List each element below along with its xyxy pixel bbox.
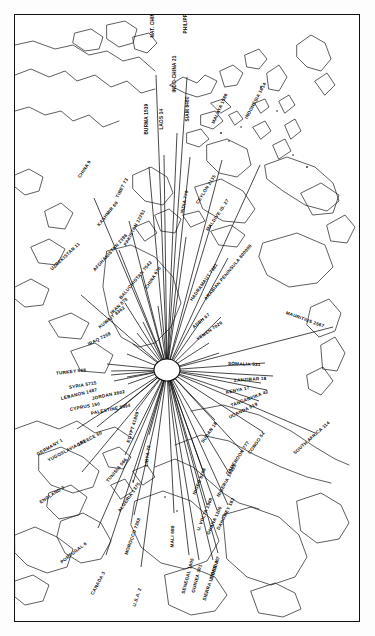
map-frame: NAT. CHINA 28PHILIPPINES 2367INDO-CHINA … xyxy=(14,14,360,622)
flow-line xyxy=(129,221,167,370)
country-label: SIAM 6480 xyxy=(185,96,190,121)
mecca-hub xyxy=(154,359,180,381)
figure-canvas: NAT. CHINA 28PHILIPPINES 2367INDO-CHINA … xyxy=(0,0,375,636)
flow-line xyxy=(133,370,167,483)
country-label: PHILIPPINES 2367 xyxy=(183,14,188,34)
flow-lines-layer xyxy=(77,75,333,567)
country-label: NAT. CHINA 28 xyxy=(150,14,155,38)
country-label: BURMA 1539 xyxy=(144,104,149,135)
country-label: LAOS 14 xyxy=(159,109,164,130)
country-label: INDO-CHINA 21 xyxy=(172,55,177,92)
country-label: MALI 689 xyxy=(170,525,176,547)
